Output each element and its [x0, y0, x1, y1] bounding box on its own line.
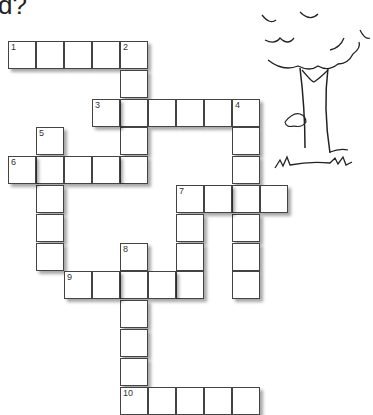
- crossword-cell[interactable]: 2: [120, 41, 148, 69]
- page-heading: d?: [0, 0, 27, 21]
- crossword-cell[interactable]: [120, 358, 148, 386]
- clue-number: 7: [179, 186, 184, 196]
- crossword-cell[interactable]: [36, 41, 64, 69]
- crossword-cell[interactable]: [204, 99, 232, 127]
- tree-illustration-icon: [260, 0, 373, 180]
- crossword-cell[interactable]: 3: [92, 99, 120, 127]
- crossword-cell[interactable]: [148, 99, 176, 127]
- crossword-cell[interactable]: [232, 214, 260, 242]
- crossword-cell[interactable]: [176, 214, 204, 242]
- clue-number: 1: [11, 42, 16, 52]
- crossword-cell[interactable]: [204, 185, 232, 213]
- crossword-cell[interactable]: 4: [232, 99, 260, 127]
- crossword-cell[interactable]: 6: [8, 156, 36, 184]
- crossword-cell[interactable]: [120, 156, 148, 184]
- crossword-cell[interactable]: [232, 156, 260, 184]
- clue-number: 8: [123, 244, 128, 254]
- crossword-cell[interactable]: [204, 387, 232, 415]
- clue-number: 5: [39, 128, 44, 138]
- crossword-cell[interactable]: 9: [64, 271, 92, 299]
- clue-number: 4: [235, 100, 240, 110]
- crossword-cell[interactable]: [260, 185, 288, 213]
- crossword-cell[interactable]: 5: [36, 127, 64, 155]
- crossword-cell[interactable]: [120, 329, 148, 357]
- crossword-cell[interactable]: [232, 243, 260, 271]
- crossword-cell[interactable]: 1: [8, 41, 36, 69]
- clue-number: 6: [11, 157, 16, 167]
- crossword-cell[interactable]: [120, 99, 148, 127]
- crossword-cell[interactable]: [36, 156, 64, 184]
- clue-number: 10: [123, 388, 133, 398]
- crossword-cell[interactable]: [92, 156, 120, 184]
- crossword-cell[interactable]: [120, 70, 148, 98]
- crossword-cell[interactable]: [176, 99, 204, 127]
- crossword-cell[interactable]: 8: [120, 243, 148, 271]
- crossword-cell[interactable]: [64, 41, 92, 69]
- clue-number: 3: [95, 100, 100, 110]
- crossword-cell[interactable]: [176, 243, 204, 271]
- crossword-cell[interactable]: [92, 41, 120, 69]
- crossword-cell[interactable]: [36, 185, 64, 213]
- crossword-cell[interactable]: [148, 387, 176, 415]
- crossword-cell[interactable]: [120, 271, 148, 299]
- crossword-cell[interactable]: [64, 156, 92, 184]
- crossword-cell[interactable]: [92, 271, 120, 299]
- crossword-cell[interactable]: [232, 387, 260, 415]
- crossword-cell[interactable]: [232, 185, 260, 213]
- crossword-cell[interactable]: 7: [176, 185, 204, 213]
- crossword-cell[interactable]: [232, 271, 260, 299]
- clue-number: 9: [67, 272, 72, 282]
- crossword-cell[interactable]: [36, 214, 64, 242]
- crossword-cell[interactable]: [36, 243, 64, 271]
- crossword-cell[interactable]: [120, 300, 148, 328]
- crossword-cell[interactable]: [176, 387, 204, 415]
- crossword-cell[interactable]: 10: [120, 387, 148, 415]
- crossword-cell[interactable]: [120, 127, 148, 155]
- crossword-cell[interactable]: [176, 271, 204, 299]
- clue-number: 2: [123, 42, 128, 52]
- crossword-cell[interactable]: [232, 127, 260, 155]
- crossword-cell[interactable]: [148, 271, 176, 299]
